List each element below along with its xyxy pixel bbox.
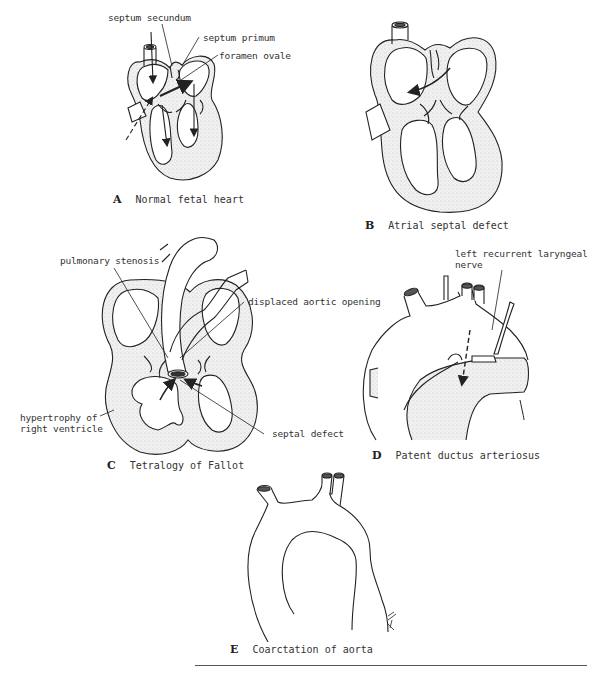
caption-text-e: Coarctation of aorta (252, 644, 372, 655)
panel-letter-c: C (107, 459, 116, 472)
caption-panel-d: DPatent ductus arteriosus (372, 449, 540, 462)
panel-a-normal-fetal-heart (126, 24, 222, 180)
aortic-arch-inner (282, 532, 356, 631)
label-septum-secundum: septum secundum (108, 12, 191, 23)
label-septum-primum: septum primum (203, 32, 275, 43)
panel-letter-d: D (372, 449, 382, 462)
aortic-arch-outer (248, 484, 388, 642)
recurrent-laryngeal-nerve (494, 302, 514, 354)
caption-text-b: Atrial septal defect (388, 220, 508, 231)
panel-b-atrial-septal-defect (366, 22, 502, 212)
panel-letter-e: E (230, 643, 238, 656)
panel-c-tetralogy-of-fallot (100, 238, 264, 455)
left-ventricle-chamber (177, 103, 198, 147)
caption-panel-b: BAtrial septal defect (365, 219, 509, 232)
panel-d-patent-ductus-arteriosus (363, 270, 528, 440)
caption-text-d: Patent ductus arteriosus (396, 450, 541, 461)
label-foramen-ovale: foramen ovale (219, 50, 291, 61)
label-displaced-aortic-opening: displaced aortic opening (248, 296, 380, 307)
caption-panel-e: ECoarctation of aorta (230, 643, 373, 656)
pulmonary-branch-left (160, 244, 170, 262)
panel-letter-b: B (365, 219, 374, 232)
pulmonary-artery (407, 358, 529, 440)
label-pulmonary-stenosis: pulmonary stenosis (60, 255, 159, 266)
label-left-recurrent-laryngeal-nerve-line1: left recurrent laryngeal (455, 248, 587, 259)
panel-letter-a: A (113, 193, 122, 206)
label-hypertrophy-line2: right ventricle (20, 423, 103, 434)
leader-septum-secundum (162, 24, 172, 66)
coarctation-constriction (388, 612, 396, 630)
caption-panel-a: ANormal fetal heart (113, 193, 244, 206)
caption-panel-c: CTetralogy of Fallot (107, 459, 244, 472)
left-common-carotid (444, 276, 448, 300)
panel-e-coarctation-of-aorta (248, 473, 396, 642)
bottom-divider (195, 665, 587, 666)
label-left-recurrent-laryngeal-nerve-line2: nerve (455, 259, 483, 270)
label-hypertrophy-line1: hypertrophy of (20, 412, 97, 423)
caption-text-a: Normal fetal heart (136, 194, 244, 205)
leader-nerve (492, 270, 502, 330)
label-septal-defect: septal defect (272, 428, 344, 439)
right-atrium-chamber (385, 47, 428, 104)
illustration-canvas (0, 0, 597, 681)
caption-text-c: Tetralogy of Fallot (130, 460, 244, 471)
